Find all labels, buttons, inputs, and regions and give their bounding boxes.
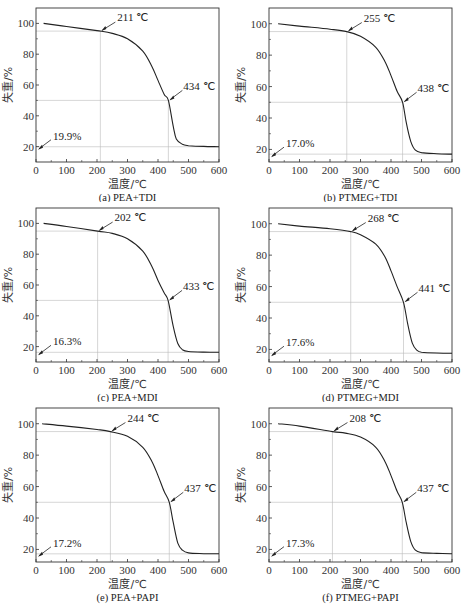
annotation-t5: 268 ℃: [368, 212, 399, 224]
annotation-t5: 255 ℃: [364, 12, 395, 24]
x-tick-label: 0: [266, 164, 272, 176]
x-tick-label: 200: [89, 164, 106, 176]
annotation-t5: 208 ℃: [349, 412, 380, 424]
x-tick-label: 200: [322, 364, 339, 376]
y-axis-title: 失重/%: [234, 267, 248, 303]
x-tick-label: 500: [180, 564, 197, 576]
chart-d: 010020030040050060020406080100268 ℃441 ℃…: [234, 208, 461, 402]
arrow-head-icon: [38, 145, 43, 150]
arrow-head-icon: [403, 497, 408, 502]
x-tick-label: 500: [180, 364, 197, 376]
arrow-head-icon: [101, 26, 106, 31]
x-tick-label: 0: [33, 164, 39, 176]
arrow-head-icon: [111, 427, 116, 432]
annotation-t50: 437 ℃: [417, 482, 448, 494]
y-tick-label: 80: [256, 449, 268, 461]
y-tick-label: 80: [256, 249, 268, 261]
arrow-head-icon: [352, 227, 357, 232]
x-axis-title: 温度/℃: [108, 377, 146, 391]
y-tick-label: 60: [23, 481, 35, 493]
arrow-head-icon: [271, 552, 276, 557]
x-axis-title: 温度/℃: [108, 177, 146, 191]
x-tick-label: 300: [352, 364, 369, 376]
x-tick-label: 100: [58, 364, 75, 376]
y-tick-label: 40: [256, 112, 268, 124]
x-tick-label: 200: [322, 564, 339, 576]
chart-panel-b: 010020030040050060020406080100255 ℃438 ℃…: [233, 0, 466, 202]
x-tick-label: 200: [89, 364, 106, 376]
x-tick-label: 400: [150, 364, 167, 376]
y-tick-label: 80: [23, 48, 35, 60]
arrow-head-icon: [38, 552, 43, 557]
y-tick-label: 100: [251, 218, 268, 230]
x-axis-title: 温度/℃: [341, 177, 379, 191]
annotation-residue: 17.3%: [286, 537, 314, 549]
x-axis-title: 温度/℃: [108, 577, 146, 591]
x-tick-label: 200: [89, 564, 106, 576]
x-tick-label: 100: [58, 164, 75, 176]
chart-panel-e: 010020030040050060020406080100244 ℃437 ℃…: [0, 400, 233, 602]
x-tick-label: 300: [119, 564, 136, 576]
chart-c: 010020030040050060020406080100202 ℃433 ℃…: [1, 208, 228, 402]
y-tick-label: 20: [23, 543, 35, 555]
arrow-head-icon: [333, 427, 338, 432]
chart-a: 010020030040050060020406080100211 ℃434 ℃…: [1, 8, 228, 202]
x-tick-label: 400: [383, 364, 400, 376]
chart-e: 010020030040050060020406080100244 ℃437 ℃…: [1, 408, 228, 604]
arrow-head-icon: [170, 497, 175, 502]
annotation-residue: 17.0%: [286, 137, 314, 149]
y-tick-label: 40: [23, 512, 35, 524]
annotation-t5: 202 ℃: [115, 211, 146, 223]
x-tick-label: 600: [444, 564, 461, 576]
y-tick-label: 100: [18, 418, 35, 430]
x-tick-label: 500: [180, 164, 197, 176]
panel-caption: (e) PEA+PAPI: [97, 592, 159, 604]
x-tick-label: 400: [383, 164, 400, 176]
annotation-residue: 19.9%: [53, 130, 81, 142]
y-tick-label: 20: [256, 343, 268, 355]
x-axis-title: 温度/℃: [341, 577, 379, 591]
annotation-residue: 17.2%: [53, 537, 81, 549]
x-tick-label: 600: [444, 364, 461, 376]
arrow-head-icon: [169, 95, 174, 100]
y-tick-label: 20: [23, 141, 35, 153]
panel-caption: (f) PTMEG+PAPI: [322, 592, 399, 604]
arrow-head-icon: [405, 297, 410, 302]
x-tick-label: 100: [291, 364, 308, 376]
annotation-residue: 17.6%: [286, 336, 314, 348]
x-tick-label: 300: [352, 164, 369, 176]
annotation-t50: 438 ℃: [418, 82, 449, 94]
chart-f: 010020030040050060020406080100208 ℃437 ℃…: [234, 408, 461, 604]
x-tick-label: 100: [58, 564, 75, 576]
y-axis-title: 失重/%: [234, 467, 248, 503]
x-tick-label: 400: [383, 564, 400, 576]
x-tick-label: 600: [211, 364, 228, 376]
x-tick-label: 0: [266, 564, 272, 576]
x-tick-label: 200: [322, 164, 339, 176]
arrow-head-icon: [404, 97, 409, 102]
arrow-head-icon: [38, 350, 43, 355]
x-tick-label: 500: [413, 564, 430, 576]
x-tick-label: 500: [413, 364, 430, 376]
arrow-head-icon: [169, 295, 174, 300]
x-tick-label: 600: [444, 164, 461, 176]
x-tick-label: 400: [150, 564, 167, 576]
annotation-t5: 211 ℃: [117, 11, 148, 23]
y-tick-label: 60: [23, 279, 35, 291]
chart-b: 010020030040050060020406080100255 ℃438 ℃…: [234, 8, 461, 202]
annotation-t50: 441 ℃: [419, 282, 450, 294]
x-tick-label: 300: [119, 364, 136, 376]
y-tick-label: 100: [18, 17, 35, 29]
y-tick-label: 100: [18, 217, 35, 229]
annotation-t50: 437 ℃: [184, 482, 215, 494]
y-tick-label: 100: [251, 418, 268, 430]
x-tick-label: 500: [413, 164, 430, 176]
annotation-residue: 16.3%: [53, 335, 81, 347]
arrow-head-icon: [99, 226, 104, 231]
y-tick-label: 20: [256, 143, 268, 155]
y-axis-title: 失重/%: [1, 267, 15, 303]
x-tick-label: 600: [211, 564, 228, 576]
y-tick-label: 20: [23, 341, 35, 353]
chart-panel-c: 010020030040050060020406080100202 ℃433 ℃…: [0, 200, 233, 402]
x-tick-label: 600: [211, 164, 228, 176]
